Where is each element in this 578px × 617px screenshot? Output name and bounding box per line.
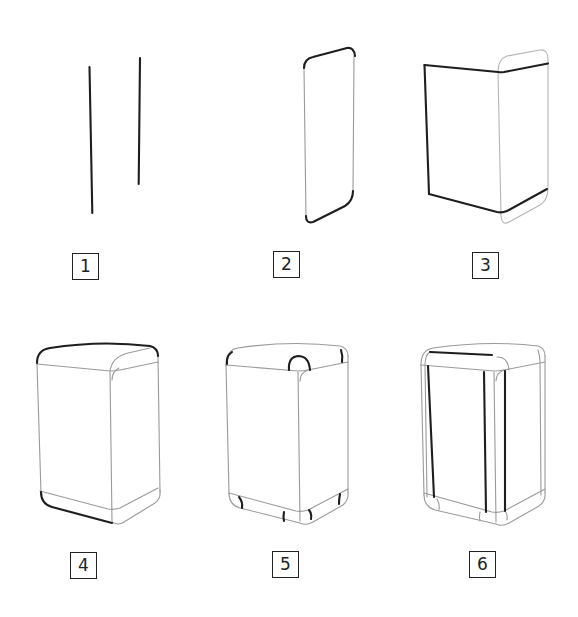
side-panel-top-curve	[304, 48, 355, 68]
step-4-drawing	[37, 343, 160, 524]
step-label-2: 2	[273, 251, 300, 278]
left-guide-line	[90, 67, 93, 213]
corner-arc-top-right	[341, 350, 342, 362]
corner-arc-bottom-left	[239, 497, 242, 508]
drawing-steps-canvas	[0, 0, 578, 617]
side-panel-ghost	[498, 50, 548, 223]
frame-top-edge-line	[430, 352, 492, 355]
side-panel-bottom-curve	[306, 191, 353, 222]
step-label-5: 5	[272, 551, 299, 578]
step-3-drawing	[425, 50, 549, 223]
corner-arc-bottom-mid	[284, 512, 285, 521]
step-5-drawing	[226, 343, 348, 524]
step-label-6: 6	[469, 551, 496, 578]
front-left-edge	[425, 65, 430, 194]
step-label-3: 3	[472, 252, 499, 279]
corner-arc-top-front	[289, 356, 310, 370]
right-guide-line	[139, 58, 140, 184]
step-1-drawing	[90, 58, 141, 213]
step-6-drawing	[421, 343, 545, 525]
corner-arc-bottom-front	[309, 510, 311, 519]
front-bottom-edge	[429, 189, 547, 212]
step-label-1: 1	[72, 253, 99, 280]
step-label-4: 4	[70, 552, 97, 579]
frame-front-inner-line	[484, 372, 486, 512]
step-2-drawing	[304, 48, 355, 223]
box-top-rounded-outline	[37, 343, 158, 363]
front-top-edge	[425, 64, 549, 73]
corner-arc-bottom-right	[339, 494, 340, 504]
corner-arc-top-left	[227, 352, 232, 364]
frame-left-inner-line	[428, 366, 434, 497]
